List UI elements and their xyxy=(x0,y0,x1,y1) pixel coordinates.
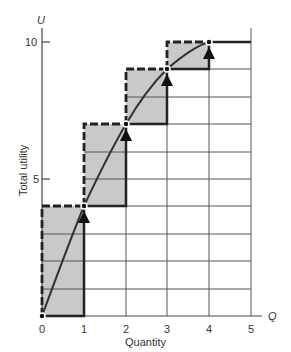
svg-text:10: 10 xyxy=(25,36,37,48)
x-axis-title: Quantity xyxy=(125,336,166,348)
svg-text:0: 0 xyxy=(39,323,45,335)
y-axis-title: Total utility xyxy=(17,144,29,196)
svg-text:3: 3 xyxy=(164,323,170,335)
x-axis-symbol: Q xyxy=(268,310,277,322)
svg-text:1: 1 xyxy=(81,323,87,335)
y-axis-symbol: U xyxy=(37,14,45,26)
svg-text:2: 2 xyxy=(123,323,129,335)
total-utility-chart: 0 1 2 3 4 5 5 10 U Q Quantity Total util… xyxy=(0,0,291,352)
svg-text:4: 4 xyxy=(206,323,212,335)
x-tick-labels: 0 1 2 3 4 5 xyxy=(39,323,254,335)
svg-text:5: 5 xyxy=(248,323,254,335)
svg-text:5: 5 xyxy=(33,173,39,185)
